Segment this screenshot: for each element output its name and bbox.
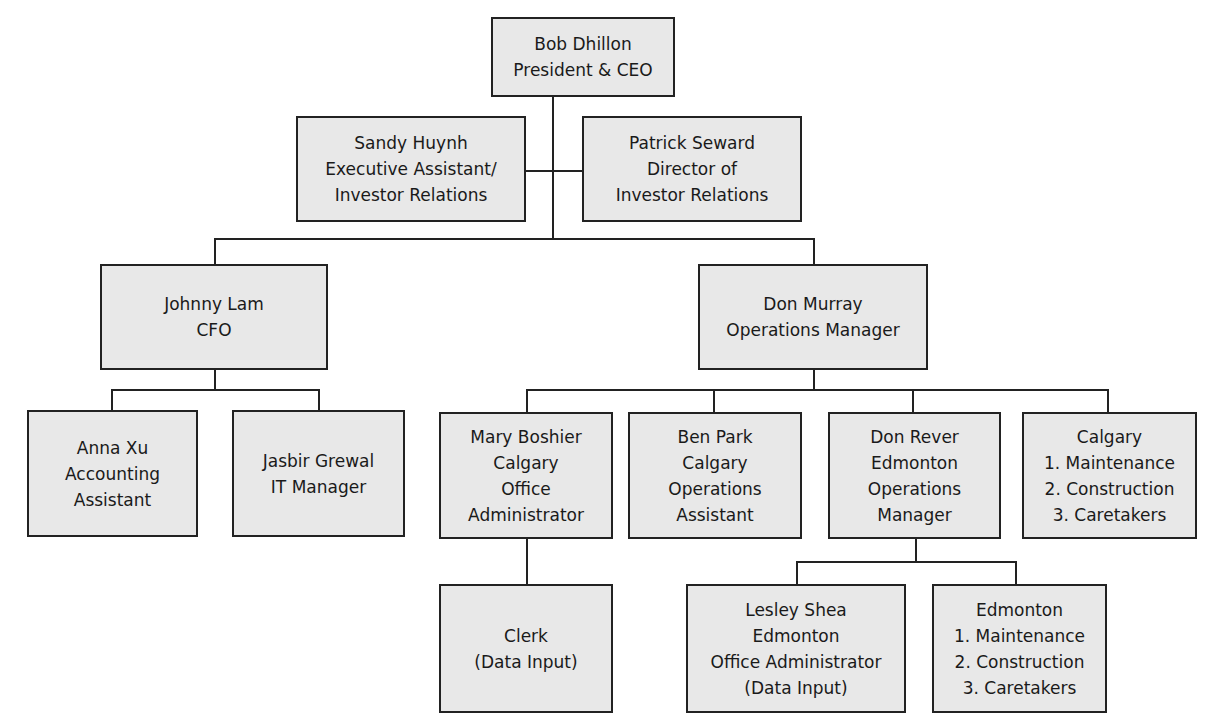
- connector-ben-up: [713, 389, 715, 413]
- node-patrick: Patrick Seward Director of Investor Rela…: [582, 116, 802, 222]
- node-mary-line-1: Mary Boshier: [470, 424, 581, 450]
- connector-johnny-up: [214, 238, 216, 266]
- node-anna-line-2: Accounting: [65, 461, 160, 487]
- connector-level2: [214, 238, 815, 240]
- node-patrick-line-1: Patrick Seward: [629, 130, 755, 156]
- connector-ops-team: [526, 389, 1109, 391]
- node-lesley-line-3: Office Administrator: [711, 649, 882, 675]
- connector-ceo-down: [552, 95, 554, 239]
- node-donrever-line-4: Manager: [877, 502, 952, 528]
- node-mary-line-3: Office: [501, 476, 551, 502]
- connector-donrever-down: [915, 537, 917, 561]
- node-donrever-line-2: Edmonton: [871, 450, 958, 476]
- node-edmonton: Edmonton 1. Maintenance 2. Construction …: [932, 584, 1107, 713]
- node-clerk: Clerk (Data Input): [439, 584, 613, 713]
- node-ben-line-1: Ben Park: [677, 424, 752, 450]
- node-clerk-line-2: (Data Input): [474, 649, 577, 675]
- node-calgary-line-1: Calgary: [1077, 424, 1142, 450]
- node-calgary: Calgary 1. Maintenance 2. Construction 3…: [1022, 412, 1197, 539]
- node-lesley-line-2: Edmonton: [752, 623, 839, 649]
- connector-mary-down: [526, 537, 528, 585]
- node-edmonton-line-1: Edmonton: [976, 597, 1063, 623]
- node-lesley-line-1: Lesley Shea: [745, 597, 847, 623]
- node-patrick-line-3: Investor Relations: [616, 182, 769, 208]
- connector-donrever-up: [912, 389, 914, 413]
- node-johnny-line-1: Johnny Lam: [164, 291, 264, 317]
- node-sandy: Sandy Huynh Executive Assistant/ Investo…: [296, 116, 526, 222]
- node-anna-line-3: Assistant: [74, 487, 151, 513]
- connector-edmonton-up: [1015, 561, 1017, 585]
- connector-edmonton-team: [796, 561, 1017, 563]
- node-ceo: Bob Dhillon President & CEO: [491, 17, 675, 97]
- node-jasbir: Jasbir Grewal IT Manager: [232, 410, 405, 537]
- node-anna-line-1: Anna Xu: [77, 435, 148, 461]
- node-donmurray: Don Murray Operations Manager: [698, 264, 928, 370]
- node-sandy-line-2: Executive Assistant/: [325, 156, 496, 182]
- node-lesley: Lesley Shea Edmonton Office Administrato…: [686, 584, 906, 713]
- node-donrever-line-3: Operations: [868, 476, 961, 502]
- node-edmonton-line-4: 3. Caretakers: [963, 675, 1077, 701]
- node-johnny: Johnny Lam CFO: [100, 264, 328, 370]
- node-patrick-line-2: Director of: [647, 156, 737, 182]
- connector-anna-up: [111, 389, 113, 411]
- node-calgary-line-2: 1. Maintenance: [1044, 450, 1175, 476]
- node-jasbir-line-1: Jasbir Grewal: [263, 448, 375, 474]
- node-mary-line-2: Calgary: [493, 450, 558, 476]
- connector-mary-up: [526, 389, 528, 413]
- node-ben-line-4: Assistant: [676, 502, 753, 528]
- node-mary-line-4: Administrator: [468, 502, 584, 528]
- node-calgary-line-3: 2. Construction: [1045, 476, 1175, 502]
- node-sandy-line-1: Sandy Huynh: [354, 130, 467, 156]
- connector-jasbir-up: [318, 389, 320, 411]
- connector-finance-team: [111, 389, 320, 391]
- node-edmonton-line-3: 2. Construction: [955, 649, 1085, 675]
- node-johnny-line-2: CFO: [196, 317, 231, 343]
- node-donrever: Don Rever Edmonton Operations Manager: [828, 412, 1001, 539]
- node-sandy-line-3: Investor Relations: [335, 182, 488, 208]
- connector-donmurray-up: [813, 238, 815, 266]
- node-calgary-line-4: 3. Caretakers: [1053, 502, 1167, 528]
- node-edmonton-line-2: 1. Maintenance: [954, 623, 1085, 649]
- node-donrever-line-1: Don Rever: [870, 424, 959, 450]
- connector-johnny-down: [214, 368, 216, 390]
- node-clerk-line-1: Clerk: [504, 623, 548, 649]
- connector-lesley-up: [796, 561, 798, 585]
- node-ben: Ben Park Calgary Operations Assistant: [628, 412, 802, 539]
- node-ceo-line-1: Bob Dhillon: [534, 31, 631, 57]
- connector-donmurray-down: [813, 368, 815, 390]
- node-donmurray-line-1: Don Murray: [763, 291, 862, 317]
- node-ceo-line-2: President & CEO: [513, 57, 652, 83]
- node-jasbir-line-2: IT Manager: [271, 474, 366, 500]
- node-ben-line-2: Calgary: [682, 450, 747, 476]
- connector-assistants: [525, 170, 582, 172]
- node-lesley-line-4: (Data Input): [744, 675, 847, 701]
- connector-calgary-up: [1107, 389, 1109, 413]
- node-anna: Anna Xu Accounting Assistant: [27, 410, 198, 537]
- node-ben-line-3: Operations: [668, 476, 761, 502]
- node-mary: Mary Boshier Calgary Office Administrato…: [439, 412, 613, 539]
- node-donmurray-line-2: Operations Manager: [726, 317, 899, 343]
